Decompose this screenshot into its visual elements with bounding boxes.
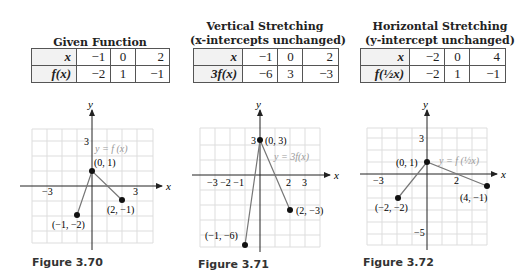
x-axis-label: x (500, 168, 506, 180)
x-tick-label: 2 (454, 175, 459, 186)
figure-caption-1: Figure 3.70 (32, 256, 103, 269)
point-label: (2, −3) (296, 205, 323, 217)
point-label: (4, −1) (460, 192, 487, 204)
figure-caption-3: Figure 3.72 (363, 256, 434, 269)
x-axis-label: x (333, 169, 339, 181)
point-label: (−2, −2) (375, 202, 408, 214)
curve-label: y = f (x) (94, 143, 128, 155)
point-label: (0, 1) (94, 157, 116, 169)
point-label: (−1, −6) (205, 230, 238, 242)
x-tick-label: 3 (133, 186, 138, 197)
point-label: (0, 1) (396, 157, 418, 169)
x-tick-label: −3 (373, 175, 384, 186)
y-tick-label: −5 (414, 227, 425, 238)
y-tick-label: 3 (84, 136, 89, 147)
y-tick-label: 3 (251, 135, 256, 146)
graph-3: x y 3 −5 −3 2 y = f (½x) (0, 1) (4, −1) … (360, 98, 506, 250)
y-axis-label: y (422, 98, 428, 110)
graph-2: x y 3 −3 −2 −1 2 3 y = 3f(x) (0, 3) (2, … (192, 98, 339, 252)
graphs-canvas: x y 3 −3 3 y = f (x) (0, 1) (2, −1) (−1,… (0, 0, 529, 278)
curve-label: y = 3f(x) (273, 151, 310, 163)
y-axis-label: y (255, 98, 261, 110)
point-label: (−1, −2) (52, 219, 85, 231)
y-axis-label: y (87, 98, 93, 110)
point-label: (2, −1) (107, 204, 134, 216)
point-label: (0, 3) (265, 135, 287, 147)
x-tick-label: 3 (302, 177, 307, 188)
graph-1: x y 3 −3 3 y = f (x) (0, 1) (2, −1) (−1,… (20, 98, 171, 250)
x-axis-label: x (165, 180, 171, 192)
x-tick-label: −3 (42, 186, 53, 197)
curve-label: y = f (½x) (438, 155, 480, 167)
y-tick-label: 3 (419, 133, 424, 144)
x-tick-label: 2 (286, 177, 291, 188)
figure-caption-2: Figure 3.71 (198, 258, 269, 271)
x-tick-label: −3 −2 −1 (207, 177, 244, 188)
